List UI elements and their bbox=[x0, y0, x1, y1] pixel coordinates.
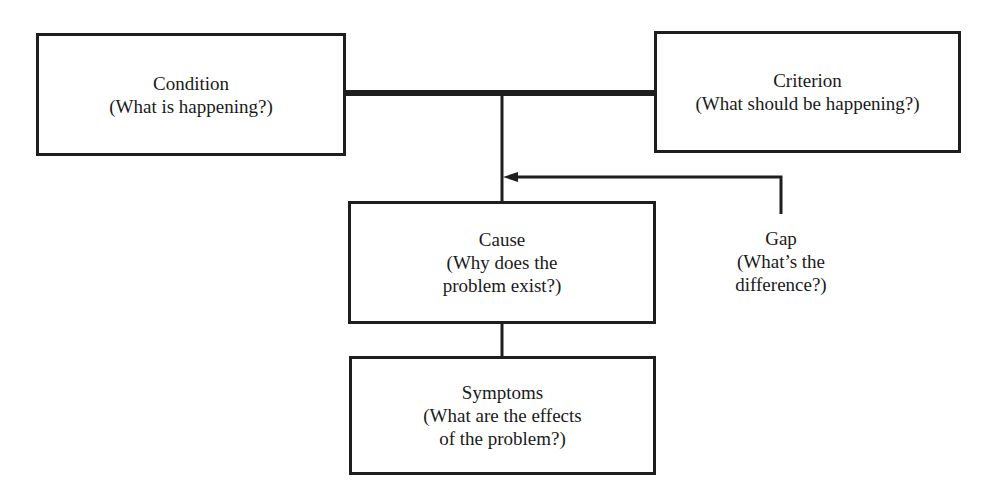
criterion-title: Criterion bbox=[773, 69, 842, 92]
criterion-question: (What should be happening?) bbox=[695, 92, 919, 115]
gap-question-line-1: (What’s the bbox=[716, 250, 846, 273]
condition-title: Condition bbox=[153, 72, 229, 95]
problem-analysis-diagram: Condition (What is happening?) Criterion… bbox=[0, 0, 999, 499]
symptoms-title: Symptoms bbox=[462, 381, 543, 404]
symptoms-question-line-1: (What are the effects bbox=[423, 404, 581, 427]
gap-question-line-2: difference?) bbox=[716, 273, 846, 296]
cause-question-line-1: (Why does the bbox=[447, 251, 558, 274]
cause-title: Cause bbox=[479, 228, 525, 251]
condition-question: (What is happening?) bbox=[109, 95, 273, 118]
cause-question-line-2: problem exist?) bbox=[443, 274, 562, 297]
cause-box: Cause (Why does the problem exist?) bbox=[348, 201, 656, 324]
arrowhead-icon bbox=[503, 172, 518, 182]
symptoms-box: Symptoms (What are the effects of the pr… bbox=[349, 356, 656, 475]
gap-label: Gap (What’s the difference?) bbox=[716, 227, 846, 296]
condition-box: Condition (What is happening?) bbox=[36, 33, 346, 156]
gap-title: Gap bbox=[716, 227, 846, 250]
symptoms-question-line-2: of the problem?) bbox=[439, 427, 566, 450]
criterion-box: Criterion (What should be happening?) bbox=[654, 31, 961, 153]
